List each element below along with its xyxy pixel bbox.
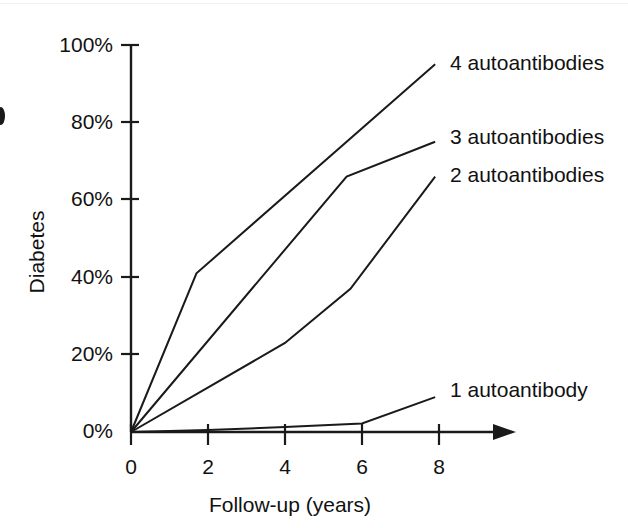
y-tick-label-60: 60% [71,187,113,210]
x-axis-title: Follow-up (years) [209,493,371,516]
series-line-2-autoantibodies [131,177,435,432]
y-axis-title: Diabetes [25,211,48,294]
series-label-2-autoantibodies: 2 autoantibodies [450,163,604,186]
figure-container: 100% 80% 60% 40% 20% 0% Diabetes 0 2 4 6… [0,0,628,528]
series-line-1-autoantibody [131,397,435,432]
y-tick-label-80: 80% [71,110,113,133]
series-line-3-autoantibodies [131,142,435,432]
x-tick-label-2: 2 [202,455,214,478]
y-tick-label-0: 0% [83,419,113,442]
y-tick-label-20: 20% [71,342,113,365]
x-tick-label-6: 6 [356,455,368,478]
series-label-3-autoantibodies: 3 autoantibodies [450,125,604,148]
series-group [131,64,435,432]
line-chart: 100% 80% 60% 40% 20% 0% Diabetes 0 2 4 6… [0,0,628,528]
y-tick-label-100: 100% [59,33,113,56]
x-axis-arrow-icon [493,424,516,440]
series-label-4-autoantibodies: 4 autoantibodies [450,51,604,74]
x-tick-label-4: 4 [279,455,291,478]
y-tick-label-40: 40% [71,265,113,288]
x-tick-label-0: 0 [125,455,137,478]
series-label-1-autoantibody: 1 autoantibody [450,378,588,401]
x-tick-label-8: 8 [433,455,445,478]
cropped-figure-mark [0,107,5,125]
